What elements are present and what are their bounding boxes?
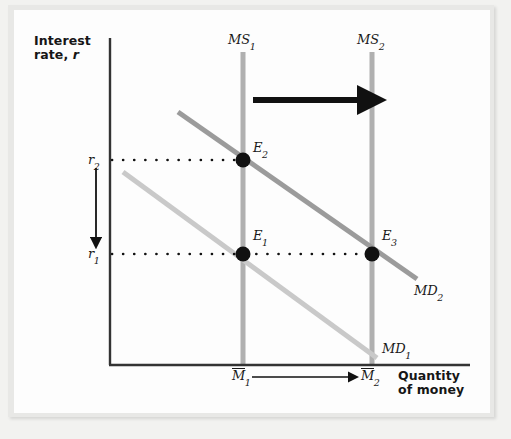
curve-label-ms2: MS2 xyxy=(357,32,385,50)
y-tick-label-r2: r2 xyxy=(88,152,100,170)
curve-md1 xyxy=(123,172,377,358)
curve-md2 xyxy=(178,112,417,279)
point-e3 xyxy=(365,247,380,262)
x-axis-title: Quantityof money xyxy=(398,369,464,397)
point-e2 xyxy=(236,153,251,168)
x-tick-label-m1: M1 xyxy=(232,368,251,386)
money-market-figure: Interestrate, r Quantityof money MS1 MS2… xyxy=(0,0,511,439)
point-e1 xyxy=(236,247,251,262)
curve-label-ms1: MS1 xyxy=(228,32,256,50)
y-axis-title: Interestrate, r xyxy=(34,34,91,62)
y-tick-label-r1: r1 xyxy=(88,246,100,264)
x-tick-label-m2: M2 xyxy=(361,368,380,386)
point-label-e3: E3 xyxy=(382,228,398,246)
point-label-e1: E1 xyxy=(253,228,269,246)
point-label-e2: E2 xyxy=(253,140,269,158)
curve-label-md2: MD2 xyxy=(414,283,444,301)
curve-label-md1: MD1 xyxy=(382,341,412,359)
